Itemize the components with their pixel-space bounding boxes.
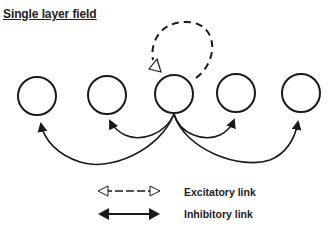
open-arrowhead-icon <box>149 59 161 72</box>
node-3 <box>155 75 193 113</box>
legend-inhibitory-symbol <box>98 208 160 220</box>
node-1 <box>18 77 56 115</box>
link-node3-to-node1 <box>41 114 174 164</box>
node-2 <box>88 76 126 114</box>
legend-excitatory-label: Excitatory link <box>184 186 256 198</box>
legend-inhibitory-label: Inhibitory link <box>184 208 253 220</box>
inhibitory-links <box>41 114 298 164</box>
node-5 <box>282 74 320 112</box>
nodes <box>18 74 320 115</box>
link-node3-to-node2 <box>110 114 174 138</box>
single-layer-field-diagram <box>0 0 333 234</box>
link-node3-to-node5 <box>174 114 298 163</box>
self-loop-excitatory-link <box>149 22 212 78</box>
link-node3-to-node4 <box>174 114 234 138</box>
legend-excitatory-symbol <box>98 186 160 196</box>
node-4 <box>217 74 255 112</box>
